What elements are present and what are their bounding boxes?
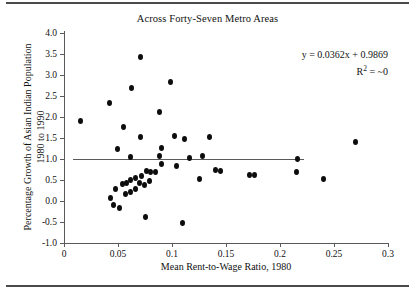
- scatter-point: [207, 134, 212, 140]
- scatter-point: [128, 177, 133, 183]
- r-squared-value: = ~0: [369, 66, 388, 77]
- y-axis-tick: [60, 33, 64, 34]
- y-axis-tick-label: -0.5: [42, 217, 57, 227]
- x-axis-tick: [64, 243, 65, 247]
- x-axis-tick-label: 0.2: [274, 249, 286, 259]
- x-axis-tick-label: 0.25: [326, 249, 343, 259]
- scatter-point: [108, 195, 113, 201]
- x-axis-tick: [334, 243, 335, 247]
- y-axis-tick-label: 1.0: [45, 154, 57, 164]
- y-axis-tick: [60, 54, 64, 55]
- y-axis-tick: [60, 138, 64, 139]
- scatter-point: [133, 186, 138, 192]
- chart-title: Across Forty-Seven Metro Areas: [0, 13, 415, 24]
- scatter-point: [157, 109, 162, 115]
- scatter-point: [174, 163, 179, 169]
- y-axis-tick-label: -1.0: [42, 238, 57, 248]
- scatter-point: [200, 153, 205, 159]
- y-axis-tick-label: 3.0: [45, 70, 57, 80]
- scatter-point: [252, 172, 257, 178]
- scatter-point: [218, 168, 223, 174]
- scatter-point: [139, 173, 144, 179]
- scatter-point: [159, 145, 164, 151]
- scatter-point: [138, 54, 143, 60]
- scatter-point: [321, 176, 326, 182]
- y-axis-title-line1: Percentage Growth of Asian Indian Popula…: [22, 44, 33, 231]
- scatter-point: [295, 156, 300, 162]
- y-axis-tick-label: 2.0: [45, 112, 57, 122]
- scatter-point: [113, 186, 118, 192]
- scatter-point: [182, 136, 187, 142]
- scatter-point: [159, 161, 164, 167]
- scatter-point: [157, 153, 162, 159]
- y-axis-tick-label: 2.5: [45, 91, 57, 101]
- y-axis-tick: [60, 180, 64, 181]
- y-axis-tick: [60, 75, 64, 76]
- y-axis-tick: [60, 159, 64, 160]
- scatter-point: [117, 205, 122, 211]
- scatter-point: [180, 220, 185, 226]
- scatter-point: [128, 189, 133, 195]
- scatter-point: [143, 214, 148, 220]
- scatter-point: [115, 146, 120, 152]
- y-axis-tick: [60, 201, 64, 202]
- x-axis-tick: [226, 243, 227, 247]
- scatter-point: [111, 202, 116, 208]
- scatter-point: [142, 182, 147, 188]
- x-axis-tick-label: 0.3: [382, 249, 394, 259]
- scatter-point: [197, 176, 202, 182]
- x-axis-tick-label: 0.1: [166, 249, 178, 259]
- x-axis-tick: [388, 243, 389, 247]
- y-axis-tick: [60, 96, 64, 97]
- scatter-point: [78, 118, 83, 124]
- scatter-point: [123, 191, 128, 197]
- scatter-point: [294, 169, 299, 175]
- scatter-point: [138, 134, 143, 140]
- x-axis-tick: [172, 243, 173, 247]
- x-axis-tick: [280, 243, 281, 247]
- scatter-point: [168, 79, 173, 85]
- r-squared-text: R2 = ~0: [302, 62, 388, 79]
- scatter-point: [247, 172, 252, 178]
- figure-top-rule: [6, 2, 409, 4]
- scatter-point: [353, 139, 358, 145]
- x-axis-tick-label: 0: [62, 249, 67, 259]
- scatter-point: [121, 124, 126, 130]
- scatter-point: [172, 133, 177, 139]
- regression-annotation: y = 0.0362x + 0.9869 R2 = ~0: [302, 48, 388, 79]
- x-axis-tick-label: 0.15: [218, 249, 235, 259]
- scatter-point: [153, 169, 158, 175]
- x-axis-tick-label: 0.05: [110, 249, 127, 259]
- scatter-point: [107, 100, 112, 106]
- y-axis-tick-label: 3.5: [45, 49, 57, 59]
- y-axis-tick-label: 0.0: [45, 196, 57, 206]
- y-axis-tick-label: 4.0: [45, 28, 57, 38]
- scatter-point: [120, 181, 125, 187]
- r-squared-exponent: 2: [363, 64, 367, 73]
- scatter-point: [147, 178, 152, 184]
- scatter-point: [128, 154, 133, 160]
- figure-bottom-rule: [6, 285, 409, 287]
- figure-container: Across Forty-Seven Metro Areas Percentag…: [0, 0, 415, 295]
- y-axis-tick: [60, 117, 64, 118]
- scatter-point: [129, 85, 134, 91]
- regression-equation: y = 0.0362x + 0.9869: [302, 48, 388, 62]
- y-axis-tick: [60, 222, 64, 223]
- x-axis-tick: [118, 243, 119, 247]
- y-axis-tick-label: 0.5: [45, 175, 57, 185]
- x-axis-title: Mean Rent-to-Wage Ratio, 1980: [64, 261, 388, 272]
- y-axis-tick-label: 1.5: [45, 133, 57, 143]
